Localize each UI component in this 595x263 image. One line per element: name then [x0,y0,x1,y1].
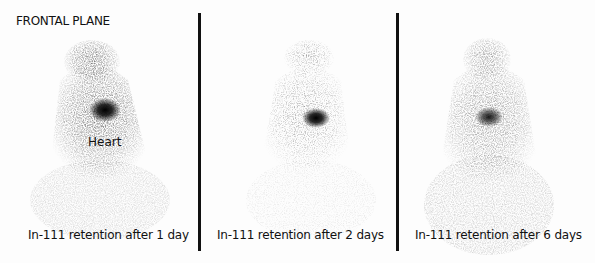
caption-day-2: In-111 retention after 2 days [217,228,384,242]
panel-day-1: FRONTAL PLANE Heart In-111 retention aft… [0,0,198,263]
scan-image-day-2 [201,0,396,263]
panel-day-2: In-111 retention after 2 days [201,0,396,263]
heart-label: Heart [88,135,121,149]
panel-day-6: In-111 retention after 6 days [399,0,595,263]
scintigraphy-figure: FRONTAL PLANE Heart In-111 retention aft… [0,0,595,263]
caption-day-6: In-111 retention after 6 days [415,228,582,242]
scan-image-day-1 [0,0,198,263]
plane-label: FRONTAL PLANE [16,14,110,28]
caption-day-1: In-111 retention after 1 day [28,228,189,242]
scan-image-day-6 [399,0,595,263]
